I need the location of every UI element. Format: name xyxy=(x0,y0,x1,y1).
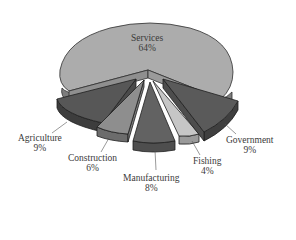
label-construction: Construction 6% xyxy=(68,153,117,173)
label-services-name: Services xyxy=(131,33,163,43)
label-services: Services 64% xyxy=(131,33,163,53)
label-manufacturing-value: 8% xyxy=(123,183,179,193)
label-government-name: Government xyxy=(226,135,274,145)
label-government-value: 9% xyxy=(226,145,274,155)
label-manufacturing-name: Manufacturing xyxy=(123,173,179,183)
label-fishing: Fishing 4% xyxy=(193,156,222,176)
label-services-value: 64% xyxy=(131,43,163,53)
label-agriculture-name: Agriculture xyxy=(18,133,62,143)
label-construction-value: 6% xyxy=(68,163,117,173)
label-agriculture-value: 9% xyxy=(18,143,62,153)
label-fishing-value: 4% xyxy=(193,166,222,176)
label-government: Government 9% xyxy=(226,135,274,155)
label-fishing-name: Fishing xyxy=(193,156,222,166)
label-manufacturing: Manufacturing 8% xyxy=(123,173,179,193)
label-agriculture: Agriculture 9% xyxy=(18,133,62,153)
label-construction-name: Construction xyxy=(68,153,117,163)
